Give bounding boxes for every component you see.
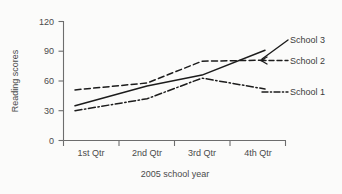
legend-label-school-1: School 1 — [290, 87, 325, 97]
x-axis-ticks — [64, 141, 286, 147]
x-axis-title: 2005 school year — [141, 169, 210, 179]
y-tick-label-0: 0 — [49, 136, 54, 146]
y-axis-title: Reading scores — [10, 49, 20, 112]
y-tick-label-120: 120 — [39, 17, 54, 27]
series-line-school-1 — [75, 78, 265, 111]
x-tick-label-q1: 1st Qtr — [77, 148, 104, 158]
legend-label-school-2: School 2 — [290, 56, 325, 66]
legend-label-school-3: School 3 — [290, 35, 325, 45]
x-tick-label-q2: 2nd Qtr — [132, 148, 162, 158]
y-tick-label-90: 90 — [44, 46, 54, 56]
y-tick-label-30: 30 — [44, 106, 54, 116]
legend-leader-school-3 — [262, 40, 288, 59]
y-tick-label-60: 60 — [44, 76, 54, 86]
series-line-school-2 — [75, 60, 265, 90]
y-axis-ticks — [59, 22, 64, 141]
line-chart-canvas: 120 90 60 30 0 1st Qtr 2nd Qtr 3rd Qtr 4… — [0, 0, 342, 194]
x-tick-label-q4: 4th Qtr — [244, 148, 272, 158]
chart-figure: 120 90 60 30 0 1st Qtr 2nd Qtr 3rd Qtr 4… — [0, 0, 342, 194]
series-line-school-3 — [75, 50, 265, 106]
x-tick-label-q3: 3rd Qtr — [188, 148, 216, 158]
